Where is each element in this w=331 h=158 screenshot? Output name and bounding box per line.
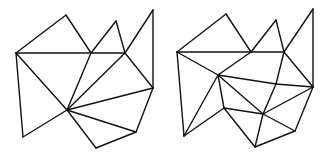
- edge-C-D: [251, 20, 276, 52]
- edge-R-K: [184, 108, 224, 136]
- edge-S-J: [255, 114, 263, 147]
- edge-H-I: [67, 110, 136, 132]
- edge-A-B: [16, 15, 66, 53]
- edge-Q-G: [276, 84, 313, 87]
- edge-E-H: [67, 53, 125, 110]
- edge-K-H: [23, 110, 67, 137]
- edge-G-I: [136, 88, 153, 132]
- edge-E-G: [125, 53, 153, 88]
- edge-A-P: [177, 52, 218, 75]
- edge-E-Q: [276, 52, 284, 84]
- edge-S-I: [263, 114, 295, 131]
- edge-E-F: [284, 9, 313, 52]
- edge-A-K: [177, 52, 184, 136]
- edge-G-I: [295, 87, 313, 131]
- edge-E-G: [284, 52, 313, 87]
- triangulation-right: [177, 9, 313, 147]
- diagram-canvas: [0, 0, 331, 158]
- edge-B-C: [226, 14, 251, 52]
- edge-I-J: [255, 131, 295, 147]
- edge-Q-S: [263, 84, 276, 114]
- edge-D-E: [276, 20, 284, 52]
- edge-C-D: [91, 21, 116, 53]
- edge-S-G: [263, 87, 313, 114]
- edge-B-C: [66, 15, 91, 53]
- edge-D-E: [116, 21, 125, 53]
- edge-P-K: [184, 75, 218, 136]
- edge-A-K: [16, 53, 23, 137]
- edge-C-H: [67, 53, 91, 110]
- edge-A-B: [177, 14, 226, 52]
- edge-E-F: [125, 10, 153, 53]
- triangulation-left: [16, 10, 153, 148]
- edge-P-C: [218, 52, 251, 75]
- triangulation-diagram: [0, 0, 331, 158]
- edge-A-H: [16, 53, 67, 110]
- edge-G-H: [67, 88, 153, 110]
- edge-R-J: [224, 108, 255, 147]
- edge-H-J: [67, 110, 96, 148]
- edge-I-J: [96, 132, 136, 148]
